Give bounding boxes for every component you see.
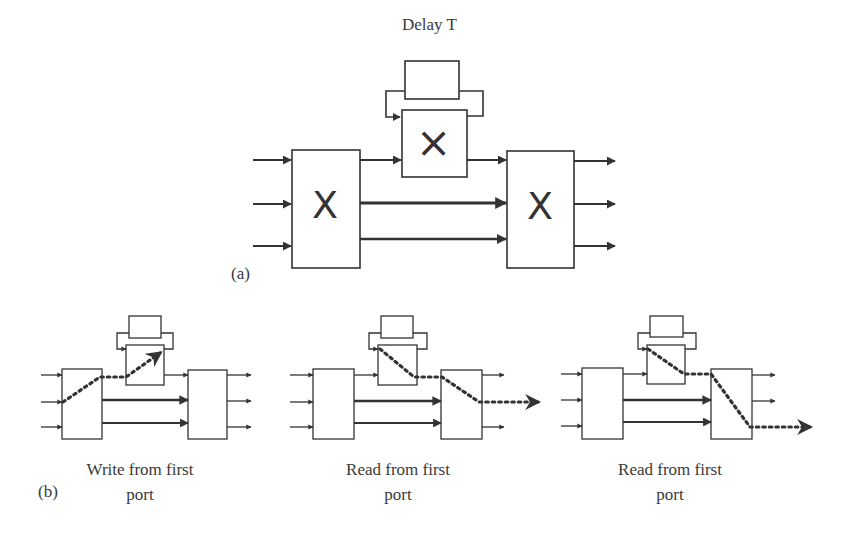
dotted-read-path-1 [380,349,538,402]
panel-read-from-first-port-1 [290,316,538,439]
panel-write-from-first-port [41,316,251,439]
caption-panel-1-line2: port [60,482,220,507]
caption-panel-2-line2: port [318,482,478,507]
caption-panel-2-line1: Read from first [318,457,478,482]
part-b-label: (b) [38,482,58,502]
delay-loop-right [459,91,483,116]
caption-panel-3-line2: port [590,482,750,507]
dotted-write-path [63,353,160,402]
delay-switch-symbol: × [416,118,451,167]
right-switch-symbol: X [527,184,553,228]
part-a-label: (a) [231,264,250,284]
delay-label: Delay T [402,15,457,35]
caption-panel-3-line1: Read from first [590,457,750,482]
caption-panel-1-line1: Write from first [60,457,220,482]
dotted-read-path-2 [648,349,810,427]
caption-panel-1: Write from first port [60,457,220,507]
panel-read-from-first-port-2 [561,316,810,439]
left-switch-symbol: X [312,183,338,227]
caption-panel-2: Read from first port [318,457,478,507]
caption-panel-3: Read from first port [590,457,750,507]
delay-buffer [405,61,459,99]
